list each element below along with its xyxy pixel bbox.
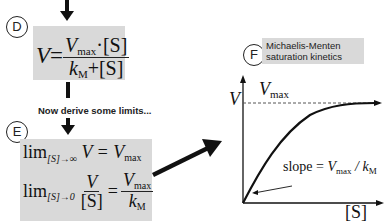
km-subscript-e2: M bbox=[137, 200, 146, 211]
equals-sign-e2: = bbox=[108, 181, 118, 202]
vmax-over-km-fraction: Vmax kM bbox=[121, 171, 153, 211]
vmax-label: Vmax bbox=[259, 79, 289, 100]
x-axis-label-text: [S] bbox=[345, 202, 367, 222]
panel-f-title: Michaelis-Menten saturation kinetics bbox=[262, 38, 364, 64]
slope-divide: / bbox=[352, 159, 363, 174]
title-line-1: Michaelis-Menten bbox=[266, 40, 360, 51]
saturation-curve-graph bbox=[220, 75, 386, 215]
lim-zero: lim bbox=[23, 181, 47, 202]
s-denominator: [S] bbox=[79, 192, 105, 210]
equals-sign: = bbox=[50, 43, 63, 68]
slope-ksub: M bbox=[369, 166, 377, 176]
velocity-symbol: V bbox=[36, 43, 50, 68]
slope-v: V bbox=[327, 159, 336, 174]
slope-annotation: slope = Vmax / kM bbox=[283, 159, 377, 176]
lim-infinity: lim bbox=[23, 142, 47, 162]
y-axis-label: V bbox=[229, 89, 240, 110]
diagonal-arrow bbox=[150, 135, 225, 180]
limit-condition-infinity: [S]→∞ bbox=[47, 153, 77, 164]
v-numerator: V bbox=[84, 173, 99, 192]
vmax-subscript-e1: max bbox=[124, 152, 141, 163]
vmax-label-main: V bbox=[259, 79, 270, 99]
vmax-label-sub: max bbox=[270, 88, 289, 100]
km-subscript: M bbox=[78, 68, 88, 80]
vmax-symbol-e2: V bbox=[123, 170, 134, 190]
km-symbol-e2: k bbox=[129, 191, 137, 211]
connector-line bbox=[66, 82, 70, 98]
derive-limits-note: Now derive some limits... bbox=[38, 105, 152, 116]
limits-box: lim[S]→∞ V = Vmax lim[S]→0 V [S] = Vmax … bbox=[20, 139, 152, 221]
vmax-subscript: max bbox=[77, 45, 96, 57]
denominator-substrate: +[S] bbox=[88, 57, 124, 79]
down-arrow-e bbox=[61, 118, 75, 136]
numerator-substrate: ·[S] bbox=[96, 34, 127, 56]
step-label-d: D bbox=[6, 16, 28, 38]
vmax-subscript-e2: max bbox=[134, 180, 151, 191]
x-axis-label: [S] bbox=[345, 202, 367, 223]
v-over-s-fraction: V [S] bbox=[79, 173, 105, 210]
title-line-2: saturation kinetics bbox=[266, 51, 360, 62]
michaelis-menten-equation-box: V= Vmax·[S] kM+[S] bbox=[33, 26, 125, 80]
limit-condition-zero: [S]→0 bbox=[47, 191, 75, 202]
rate-fraction: Vmax·[S] kM+[S] bbox=[63, 35, 129, 80]
km-symbol: k bbox=[69, 57, 78, 79]
down-arrow-top bbox=[60, 0, 74, 22]
limit-expression-infinity: V = V bbox=[81, 142, 124, 162]
slope-text: slope = bbox=[283, 159, 327, 174]
slope-vsub: max bbox=[336, 166, 352, 176]
vmax-symbol: V bbox=[65, 34, 77, 56]
